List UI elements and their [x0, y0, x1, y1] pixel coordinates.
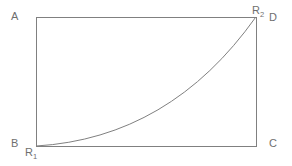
vertex-label-b: B — [11, 138, 19, 149]
dividing-curve — [37, 18, 256, 147]
rectangle-abcd — [37, 18, 257, 147]
geometry-figure: A D B C R2 R1 — [0, 0, 292, 166]
region-label-r2-base: R — [252, 4, 260, 16]
region-label-r2: R2 — [252, 5, 264, 19]
region-label-r1-base: R — [25, 146, 33, 158]
vertex-label-c: C — [269, 138, 277, 149]
vertex-label-d: D — [269, 12, 277, 23]
region-label-r1: R1 — [25, 147, 37, 161]
vertex-label-a: A — [11, 11, 19, 22]
figure-canvas — [0, 0, 292, 166]
region-label-r1-subscript: 1 — [33, 152, 37, 161]
region-label-r2-subscript: 2 — [260, 10, 264, 19]
